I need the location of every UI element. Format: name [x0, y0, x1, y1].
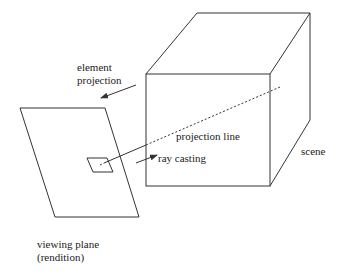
- label-viewing-plane: viewing plane (rendition): [37, 238, 99, 264]
- cube-side-edges: [270, 13, 310, 186]
- label-ray-casting: ray casting: [158, 152, 206, 165]
- diagram-canvas: [0, 0, 340, 276]
- label-projection-line: projection line: [176, 130, 240, 143]
- label-projection: projection: [77, 74, 122, 87]
- label-viewing-plane-title: viewing plane: [37, 238, 99, 251]
- cube-top-face: [146, 13, 310, 74]
- label-scene: scene: [301, 145, 325, 158]
- label-element-projection: element projection: [77, 61, 122, 87]
- label-rendition: (rendition): [37, 251, 99, 264]
- label-element: element: [77, 61, 122, 74]
- viewing-plane: [20, 108, 139, 217]
